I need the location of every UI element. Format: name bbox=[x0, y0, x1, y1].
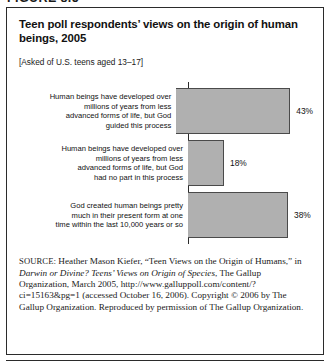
bar-container: 38% bbox=[188, 192, 313, 238]
source-note: SOURCE: Heather Mason Kiefer, “Teen View… bbox=[19, 256, 311, 312]
bar-container: 18% bbox=[188, 140, 313, 186]
bar-18-percent bbox=[188, 140, 224, 186]
label-line: Human beings have developed over bbox=[61, 144, 183, 154]
figure-number-label: FIGURE 8.5 bbox=[7, 0, 79, 5]
bar-row: God created human beings pretty much in … bbox=[17, 192, 313, 238]
bar-value-label: 38% bbox=[294, 210, 311, 220]
bar-value-label: 43% bbox=[296, 106, 313, 116]
chart-subtitle: [Asked of U.S. teens aged 13–17] bbox=[19, 57, 313, 68]
source-publication-title: Darwin or Divine? Teens’ Views on Origin… bbox=[19, 268, 215, 278]
label-line: advanced forms of life, but God bbox=[77, 163, 183, 173]
bar-38-percent bbox=[188, 192, 288, 238]
figure-container: Teen poll respondents’ views on the orig… bbox=[6, 7, 324, 355]
label-line: time within the last 10,000 years or so bbox=[56, 220, 183, 230]
bottom-divider-rule bbox=[6, 360, 324, 361]
bar-container: 43% bbox=[176, 88, 313, 134]
label-line: millions of years from less bbox=[96, 154, 183, 164]
source-text-part-1: : Heather Mason Kiefer, “Teen Views on t… bbox=[54, 256, 302, 266]
bar-value-label: 18% bbox=[230, 158, 247, 168]
label-line: had no part in this process bbox=[94, 173, 183, 183]
bar-row: Human beings have developed over million… bbox=[17, 140, 313, 186]
bar-category-label: God created human beings pretty much in … bbox=[17, 192, 188, 238]
label-line: God created human beings pretty bbox=[70, 201, 183, 211]
bar-category-label: Human beings have developed over million… bbox=[17, 140, 188, 186]
bar-43-percent bbox=[176, 88, 290, 134]
label-line: guided this process bbox=[106, 121, 171, 131]
label-line: much in their present form at one bbox=[72, 211, 183, 221]
bar-chart-plot-area: Human beings have developed over million… bbox=[17, 78, 313, 250]
label-line: millions of years from less bbox=[84, 102, 171, 112]
source-prefix: SOURCE bbox=[19, 256, 54, 266]
bar-category-label: Human beings have developed over million… bbox=[17, 88, 176, 134]
label-line: advanced forms of life, but God bbox=[66, 111, 172, 121]
chart-title: Teen poll respondents’ views on the orig… bbox=[19, 17, 307, 45]
bar-row: Human beings have developed over million… bbox=[17, 88, 313, 134]
label-line: Human beings have developed over bbox=[50, 92, 172, 102]
